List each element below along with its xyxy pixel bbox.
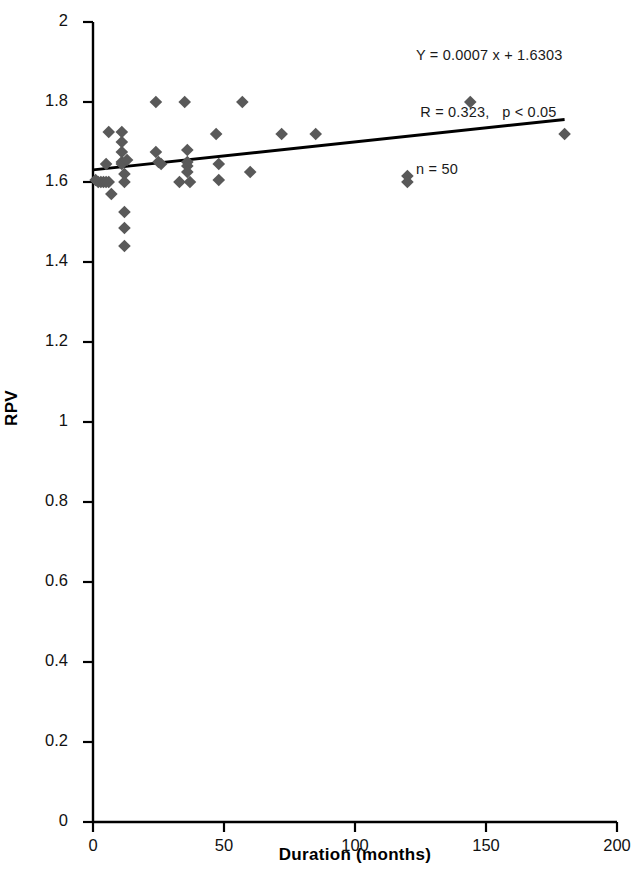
y-tick-label-1_6: 1.6 [8,171,68,190]
x-axis-ticks [93,822,617,832]
correlation-pvalue-text: R = 0.323, p < 0.05 [416,103,563,122]
data-point-marker [181,144,194,157]
regression-equation-text: Y = 0.0007 x + 1.6303 [416,46,563,65]
y-tick-label-0_6: 0.6 [8,571,68,590]
y-tick-label-1_2: 1.2 [8,331,68,350]
data-point-marker [236,96,249,109]
y-tick-label-0_2: 0.2 [8,731,68,750]
data-point-marker [118,176,131,189]
data-point-marker [102,126,115,139]
sample-size-text: n = 50 [416,160,563,179]
y-axis-title: RPV [2,378,22,438]
y-axis-ticks [83,22,93,822]
scatter-chart-figure: 2 1.8 1.6 1.4 1.2 1 0.8 0.6 0.4 0.2 0 0 … [0,0,637,871]
y-tick-label-2: 2 [8,11,68,30]
data-point-marker [212,174,225,187]
y-tick-label-0_4: 0.4 [8,651,68,670]
y-tick-label-0: 0 [8,811,68,830]
data-point-marker [212,158,225,171]
data-point-marker [105,188,118,201]
data-point-marker [275,128,288,141]
data-point-marker [244,166,257,179]
y-tick-label-0_8: 0.8 [8,491,68,510]
data-point-marker [309,128,322,141]
data-point-marker [118,240,131,253]
data-point-marker [184,176,197,189]
statistics-annotation: Y = 0.0007 x + 1.6303 R = 0.323, p < 0.0… [416,8,563,217]
y-tick-label-1_8: 1.8 [8,91,68,110]
data-point-marker [150,146,163,159]
data-point-marker [178,96,191,109]
y-tick-label-1_4: 1.4 [8,251,68,270]
data-point-marker [118,222,131,235]
data-point-marker [118,206,131,219]
x-axis-title: Duration (months) [93,845,617,865]
data-point-marker [210,128,223,141]
data-point-marker [150,96,163,109]
